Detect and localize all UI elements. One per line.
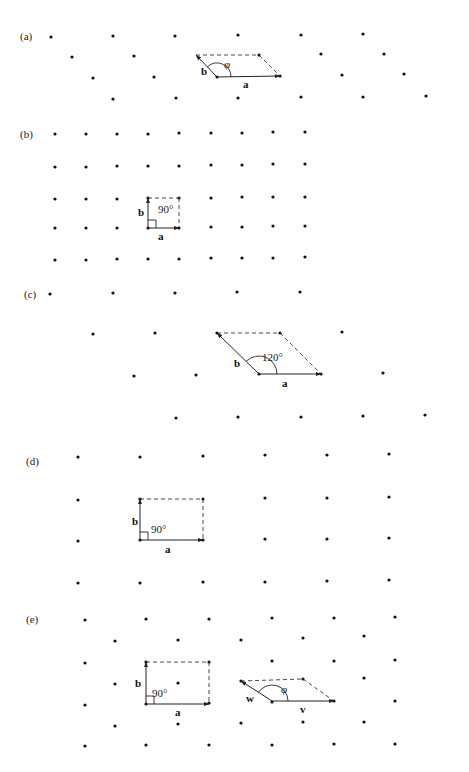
lattice-point	[144, 743, 147, 746]
lattice-point	[146, 132, 149, 135]
vector-label-a: a	[175, 706, 181, 718]
lattice-point	[340, 73, 343, 76]
vector-label-w: w	[246, 692, 254, 704]
lattice-point	[271, 130, 274, 133]
lattice-point	[270, 743, 273, 746]
vector-label-a: a	[158, 230, 164, 242]
lattice-point	[393, 658, 396, 661]
lattice-point	[207, 743, 210, 746]
lattice-point	[113, 639, 116, 642]
lattice-point	[111, 291, 114, 294]
lattice-point	[76, 498, 79, 501]
lattice-point	[84, 165, 87, 168]
lattice-point	[263, 537, 266, 540]
lattice-point	[138, 455, 141, 458]
lattice-point	[153, 331, 156, 334]
lattice-point	[270, 659, 273, 662]
lattice-point	[362, 676, 365, 679]
lattice-point	[239, 721, 242, 724]
lattice-point	[83, 744, 86, 747]
right-angle-marker	[148, 220, 156, 228]
lattice-point	[332, 742, 335, 745]
lattice-point	[271, 195, 274, 198]
lattice-point	[387, 495, 390, 498]
lattice-point	[424, 94, 427, 97]
lattice-point	[84, 258, 87, 261]
angle-label: 90°	[158, 203, 173, 215]
lattice-point	[91, 332, 94, 335]
lattice-point	[176, 681, 179, 684]
lattice-point	[362, 720, 365, 723]
lattice-point	[235, 290, 238, 293]
lattice-point	[303, 195, 306, 198]
lattice-point	[174, 96, 177, 99]
lattice-point	[298, 290, 301, 293]
unit-cell-edge	[259, 55, 280, 76]
lattice-point	[271, 224, 274, 227]
unit-cell-lattice-a: ab90°	[135, 662, 209, 718]
lattice-vector-a	[217, 76, 280, 77]
lattice-point	[240, 195, 243, 198]
lattice-point	[393, 742, 396, 745]
lattice-point	[176, 722, 179, 725]
lattice-point	[387, 452, 390, 455]
lattice-point	[84, 226, 87, 229]
angle-label: φ	[281, 683, 287, 695]
lattice-point	[299, 415, 302, 418]
lattice-point	[83, 661, 86, 664]
lattice-point	[115, 132, 118, 135]
panel-label: (c)	[24, 288, 37, 301]
lattice-point	[209, 131, 212, 134]
lattice-point	[53, 165, 56, 168]
lattice-point	[209, 256, 212, 259]
lattice-point	[76, 581, 79, 584]
lattice-point	[91, 76, 94, 79]
lattice-point	[332, 659, 335, 662]
lattice-point	[271, 162, 274, 165]
lattice-point	[361, 95, 364, 98]
lattice-point	[301, 720, 304, 723]
lattice-point	[303, 255, 306, 258]
panel-d-rectangular-lattice: (d)ab90°	[26, 452, 391, 584]
lattice-point	[83, 703, 86, 706]
lattice-point	[382, 52, 385, 55]
lattice-point	[325, 537, 328, 540]
lattice-point	[303, 130, 306, 133]
lattice-point	[115, 197, 118, 200]
lattice-point	[111, 97, 114, 100]
vector-label-v: v	[300, 703, 306, 715]
lattice-point	[201, 580, 204, 583]
lattice-point	[236, 96, 239, 99]
angle-label: 120°	[262, 351, 283, 363]
lattice-point	[239, 638, 242, 641]
lattice-point	[132, 54, 135, 57]
vector-label-b: b	[135, 677, 141, 689]
lattice-point	[138, 581, 141, 584]
lattice-point	[111, 34, 114, 37]
unit-cell-lattice-b: vwφ	[241, 679, 334, 715]
panel-label: (d)	[26, 455, 39, 468]
lattice-point	[270, 616, 273, 619]
lattice-point	[53, 226, 56, 229]
lattice-point	[115, 226, 118, 229]
vector-label-a: a	[282, 377, 288, 389]
unit-cell-edge	[280, 333, 321, 374]
angle-label: φ	[224, 58, 230, 70]
lattice-point	[84, 197, 87, 200]
unit-cell-edge	[241, 679, 303, 681]
lattice-point	[240, 256, 243, 259]
lattice-point	[53, 132, 56, 135]
panel-c-hexagonal-lattice: (c)ab120°	[24, 288, 427, 420]
lattice-point	[263, 453, 266, 456]
lattice-point	[299, 95, 302, 98]
lattice-point	[207, 617, 210, 620]
lattice-point	[319, 52, 322, 55]
vector-label-a: a	[165, 543, 171, 555]
lattice-point	[48, 292, 51, 295]
lattice-point	[113, 682, 116, 685]
lattice-point	[301, 636, 304, 639]
vector-label-b: b	[138, 206, 144, 218]
lattice-point	[362, 634, 365, 637]
lattice-point	[132, 374, 135, 377]
vector-label-b: b	[132, 515, 138, 527]
